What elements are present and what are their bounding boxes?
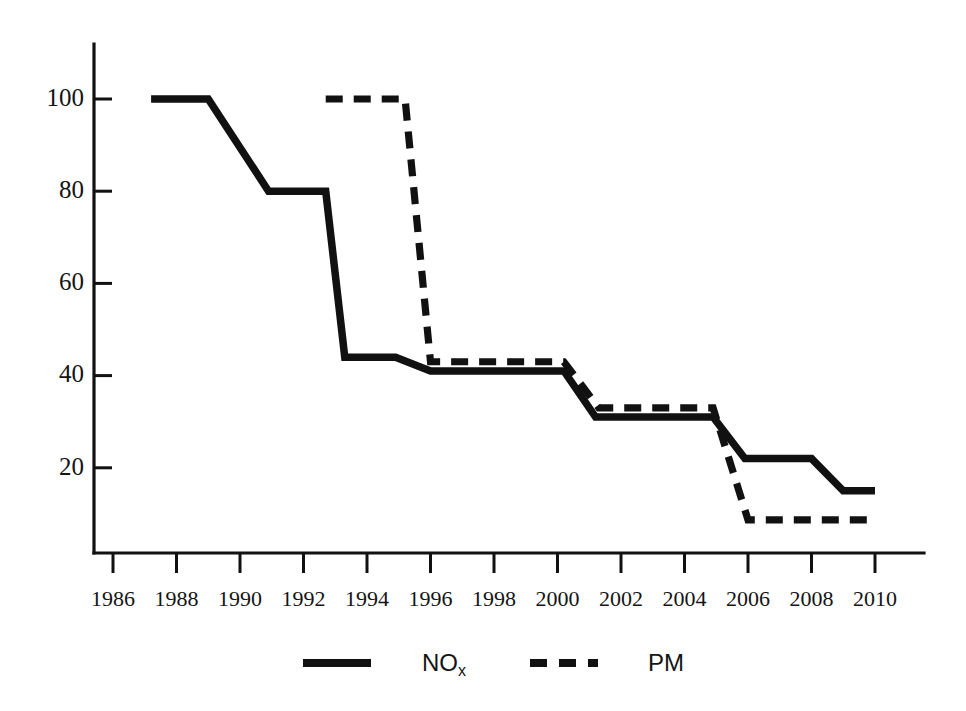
x-tick-label: 2004 — [663, 586, 707, 611]
x-tick-label: 2008 — [790, 586, 834, 611]
legend-label-nox-main: NO — [422, 649, 458, 676]
x-tick-label: 1986 — [91, 586, 135, 611]
x-tick-label: 1994 — [345, 586, 389, 611]
y-axis-tick-labels: 20406080100 — [47, 84, 85, 480]
y-axis-ticks — [94, 99, 112, 468]
x-axis-tick-labels: 1986198819901992199419961998200020022004… — [91, 586, 897, 611]
x-tick-label: 1998 — [472, 586, 516, 611]
x-tick-label: 1992 — [282, 586, 326, 611]
x-tick-label: 2006 — [726, 586, 770, 611]
x-axis-ticks — [113, 554, 875, 573]
x-tick-label: 2010 — [853, 586, 897, 611]
x-tick-label: 1990 — [218, 586, 262, 611]
legend-label-pm: PM — [648, 649, 684, 676]
y-tick-label: 80 — [59, 176, 84, 203]
y-tick-label: 20 — [59, 453, 84, 480]
y-tick-label: 100 — [47, 84, 85, 111]
chart-canvas: 20406080100 1986198819901992199419961998… — [0, 0, 966, 711]
data-series-layer — [151, 99, 875, 520]
chart-legend: NOx PM — [303, 649, 684, 679]
x-tick-label: 1988 — [155, 586, 199, 611]
series-line-nox — [151, 99, 875, 491]
x-tick-label: 2000 — [536, 586, 580, 611]
x-tick-label: 2002 — [599, 586, 643, 611]
x-tick-label: 1996 — [409, 586, 453, 611]
y-tick-label: 40 — [59, 360, 84, 387]
svg-text:NOx: NOx — [422, 649, 466, 679]
y-tick-label: 60 — [59, 268, 84, 295]
emissions-limit-chart: 20406080100 1986198819901992199419961998… — [0, 0, 966, 711]
legend-label-nox-subscript: x — [458, 662, 466, 679]
